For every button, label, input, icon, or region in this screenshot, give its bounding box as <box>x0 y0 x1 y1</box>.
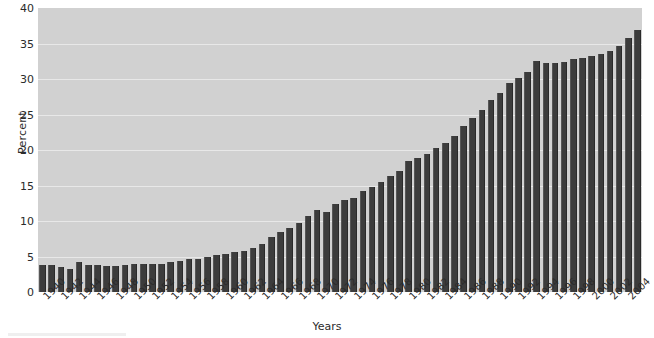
bar <box>469 118 476 292</box>
bar <box>579 58 586 292</box>
bar <box>451 136 458 292</box>
bar <box>460 126 467 292</box>
bar <box>588 56 595 292</box>
bar <box>506 83 513 292</box>
y-axis-tick-list: 0510152025303540 <box>0 0 34 338</box>
y-axis-tick: 15 <box>0 181 34 192</box>
bar <box>378 182 385 292</box>
bar <box>625 38 632 292</box>
y-axis-tick: 30 <box>0 74 34 85</box>
y-axis-tick: 5 <box>0 252 34 263</box>
bar <box>497 93 504 292</box>
y-axis-tick: 0 <box>0 287 34 298</box>
y-axis-tick: 35 <box>0 39 34 50</box>
bar <box>533 61 540 292</box>
bar <box>433 148 440 292</box>
bar <box>488 100 495 292</box>
y-axis-tick: 20 <box>0 145 34 156</box>
bar-series <box>38 8 642 292</box>
bar <box>524 72 531 292</box>
bar <box>570 59 577 292</box>
bar <box>479 110 486 292</box>
footer-rule <box>8 333 126 336</box>
bar <box>341 200 348 292</box>
y-axis-tick: 25 <box>0 110 34 121</box>
bar <box>396 171 403 292</box>
bar <box>543 63 550 292</box>
bar <box>515 78 522 292</box>
y-axis-tick: 40 <box>0 3 34 14</box>
bar <box>634 30 641 292</box>
x-axis-label: Years <box>0 320 654 333</box>
bar <box>414 158 421 292</box>
bar <box>39 265 46 292</box>
bar <box>360 191 367 292</box>
bar <box>616 46 623 292</box>
bar <box>552 63 559 292</box>
plot-area <box>38 8 642 292</box>
bar <box>405 161 412 292</box>
bar <box>442 143 449 292</box>
y-axis-tick: 10 <box>0 216 34 227</box>
bar <box>607 51 614 292</box>
bar <box>561 62 568 292</box>
bar <box>424 154 431 292</box>
bar-chart-figure: Percent 0510152025303540 194019421944194… <box>0 0 654 338</box>
bar <box>598 54 605 292</box>
